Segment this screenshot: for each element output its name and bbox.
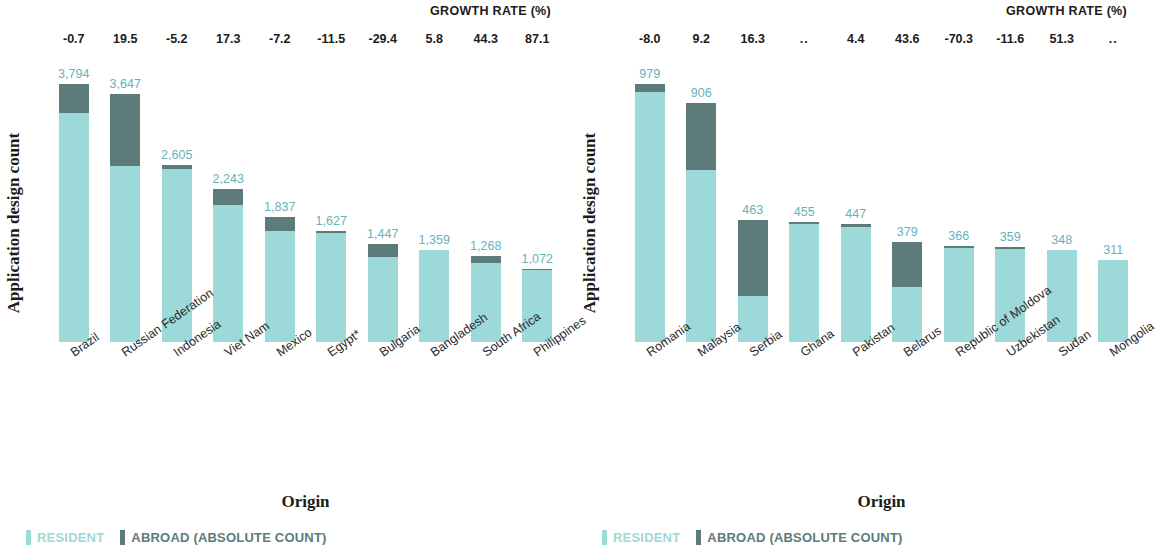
x-tick: Serbia — [727, 344, 779, 474]
x-tick: Belarus — [882, 344, 934, 474]
stacked-bar[interactable] — [789, 222, 819, 342]
growth-rate-title-right: GROWTH RATE (%) — [1006, 4, 1127, 18]
x-tick: Egypt* — [306, 344, 358, 474]
stacked-bar[interactable] — [1098, 260, 1128, 342]
bar-slot[interactable]: 1,268 — [460, 62, 512, 342]
x-tick: Pakistan — [830, 344, 882, 474]
stacked-bar[interactable] — [316, 231, 346, 342]
legend-swatch-abroad-icon — [120, 530, 125, 545]
stacked-bar[interactable] — [265, 217, 295, 342]
bar-segment-abroad — [738, 220, 768, 296]
growth-rate-value: 87.1 — [512, 32, 564, 50]
plot-area-right: 979906463455447379366359348311 — [624, 62, 1139, 342]
bar-slot[interactable]: 979 — [624, 62, 676, 342]
legend-right: RESIDENT ABROAD (ABSOLUTE COUNT) — [602, 530, 903, 545]
growth-rate-value: 51.3 — [1036, 32, 1088, 50]
bar-slot[interactable]: 379 — [882, 62, 934, 342]
growth-rate-value: -8.0 — [624, 32, 676, 50]
bar-slot[interactable]: 3,794 — [48, 62, 100, 342]
x-tick: Bulgaria — [357, 344, 409, 474]
stacked-bar[interactable] — [944, 246, 974, 342]
bar-segment-resident — [841, 227, 871, 342]
bar-slot[interactable]: 3,647 — [100, 62, 152, 342]
x-tick: Republic of Moldova — [933, 344, 985, 474]
growth-rate-value: 17.3 — [203, 32, 255, 50]
x-tick: Ghana — [779, 344, 831, 474]
x-tick-labels-left: BrazilRussian FederationIndonesiaViet Na… — [48, 344, 563, 474]
stacked-bar[interactable] — [635, 84, 665, 342]
growth-rate-value: 9.2 — [676, 32, 728, 50]
stacked-bar[interactable] — [841, 224, 871, 342]
growth-rate-value: 16.3 — [727, 32, 779, 50]
x-tick: South Africa — [460, 344, 512, 474]
bar-slot[interactable]: 1,359 — [409, 62, 461, 342]
bar-segment-resident — [944, 248, 974, 342]
bar-segment-resident — [110, 166, 140, 342]
bar-value-label: 2,605 — [161, 148, 192, 162]
bar-value-label: 1,627 — [316, 214, 347, 228]
growth-rate-value: 19.5 — [100, 32, 152, 50]
bar-segment-abroad — [59, 84, 89, 113]
bar-value-label: 311 — [1103, 243, 1123, 257]
x-axis-title-right: Origin — [624, 492, 1139, 512]
stacked-bar[interactable] — [59, 84, 89, 342]
x-tick-labels-right: RomaniaMalaysiaSerbiaGhanaPakistanBelaru… — [624, 344, 1139, 474]
bar-slot[interactable]: 1,627 — [306, 62, 358, 342]
chart-panel-left: GROWTH RATE (%) -0.719.5-5.217.3-7.2-11.… — [0, 0, 575, 560]
stacked-bar[interactable] — [686, 103, 716, 342]
legend-item-abroad-left: ABROAD (ABSOLUTE COUNT) — [120, 530, 326, 545]
bar-slot[interactable]: 463 — [727, 62, 779, 342]
legend-item-abroad-right: ABROAD (ABSOLUTE COUNT) — [696, 530, 902, 545]
y-axis-title-right: Application design count — [578, 98, 602, 348]
legend-swatch-resident-icon — [26, 530, 31, 545]
x-tick: Philippines — [512, 344, 564, 474]
bar-slot[interactable]: 311 — [1088, 62, 1140, 342]
chart-panel-right: GROWTH RATE (%) -8.09.216.3..4.443.6-70.… — [576, 0, 1151, 560]
growth-rate-value: .. — [1088, 32, 1140, 50]
bar-value-label: 3,794 — [58, 67, 89, 81]
bar-value-label: 359 — [1000, 230, 1021, 244]
bar-slot[interactable]: 447 — [830, 62, 882, 342]
bar-segment-abroad — [213, 189, 243, 204]
x-tick: Bangladesh — [409, 344, 461, 474]
bar-segment-abroad — [110, 94, 140, 166]
bar-slot[interactable]: 455 — [779, 62, 831, 342]
bar-segment-abroad — [368, 244, 398, 258]
legend-label-resident: RESIDENT — [613, 530, 680, 545]
bar-group-left: 3,7943,6472,6052,2431,8371,6271,4471,359… — [48, 62, 563, 342]
growth-rate-value: -0.7 — [48, 32, 100, 50]
bar-slot[interactable]: 1,837 — [254, 62, 306, 342]
stacked-bar[interactable] — [419, 250, 449, 342]
bar-slot[interactable]: 1,447 — [357, 62, 409, 342]
growth-rate-value: -11.6 — [985, 32, 1037, 50]
bar-slot[interactable]: 906 — [676, 62, 728, 342]
y-axis-title-right-text: Application design count — [580, 133, 600, 313]
bar-value-label: 906 — [691, 86, 712, 100]
bar-segment-resident — [789, 224, 819, 342]
bar-value-label: 2,243 — [213, 172, 244, 186]
stacked-bar[interactable] — [738, 220, 768, 342]
bar-value-label: 3,647 — [110, 77, 141, 91]
bar-slot[interactable]: 366 — [933, 62, 985, 342]
bar-segment-resident — [59, 113, 89, 342]
bar-slot[interactable]: 1,072 — [512, 62, 564, 342]
bar-segment-resident — [1098, 260, 1128, 342]
growth-rate-value: .. — [779, 32, 831, 50]
x-tick: Sudan — [1036, 344, 1088, 474]
bar-segment-abroad — [471, 256, 501, 263]
bar-value-label: 979 — [639, 67, 660, 81]
bar-segment-abroad — [635, 84, 665, 92]
growth-rate-row-right: -8.09.216.3..4.443.6-70.3-11.651.3.. — [624, 32, 1139, 50]
legend-swatch-abroad-icon — [696, 530, 701, 545]
x-axis-title-left: Origin — [48, 492, 563, 512]
stacked-bar[interactable] — [892, 242, 922, 342]
y-axis-title-left: Application design count — [2, 98, 26, 348]
legend-label-abroad: ABROAD (ABSOLUTE COUNT) — [131, 530, 326, 545]
bar-value-label: 379 — [897, 225, 918, 239]
stacked-bar[interactable] — [213, 189, 243, 342]
legend-left: RESIDENT ABROAD (ABSOLUTE COUNT) — [26, 530, 327, 545]
bar-segment-abroad — [686, 103, 716, 170]
stacked-bar[interactable] — [368, 244, 398, 342]
stacked-bar[interactable] — [110, 94, 140, 342]
